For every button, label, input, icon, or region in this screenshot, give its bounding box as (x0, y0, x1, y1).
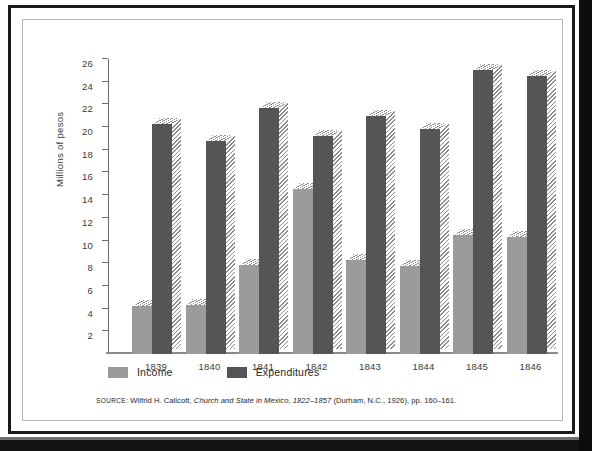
bar-expenditures (259, 108, 279, 354)
y-tick: 22 (102, 103, 108, 104)
bar-face (453, 235, 473, 354)
y-tick-label: 26 (82, 58, 93, 59)
y-tick: 18 (102, 149, 108, 150)
bar-group (400, 59, 453, 354)
bar-group (507, 59, 560, 354)
legend-item-expenditures: Expenditures (227, 366, 320, 378)
bar-income (346, 260, 366, 354)
source-author: Wilfrid H. Callcott, (130, 396, 191, 405)
bar-side-hatch (279, 103, 288, 349)
legend-item-income: Income (108, 366, 173, 378)
x-tick-label: 1846 (520, 361, 542, 372)
bar-group (186, 59, 239, 354)
y-tick-label: 20 (82, 126, 93, 127)
bar-face (239, 265, 259, 354)
bar-group (239, 59, 292, 354)
y-axis-title: Millions of pesos (54, 112, 65, 187)
y-tick: 20 (102, 126, 108, 127)
bar-expenditures (420, 129, 440, 354)
bar-income (239, 265, 259, 354)
bar-top-hatch (368, 110, 393, 116)
legend-label-expenditures: Expenditures (256, 366, 320, 378)
scanned-page: Millions of pesos 2468101214161820222426… (0, 0, 592, 451)
y-tick-label: 2 (88, 330, 93, 331)
bar-face (293, 189, 313, 354)
source-tail: (Durham, N.C., 1926), pp. 160–161. (333, 396, 456, 405)
bar-face (400, 266, 420, 355)
scan-edge-right (579, 0, 592, 451)
bar-face (313, 136, 333, 354)
bar-expenditures (473, 70, 493, 354)
y-tick-label: 12 (82, 216, 93, 217)
bar-expenditures (313, 136, 333, 354)
y-tick-label: 8 (88, 262, 93, 263)
x-tick-label: 1845 (466, 361, 488, 372)
bar-income (293, 189, 313, 354)
legend-label-income: Income (137, 366, 173, 378)
plot-area: 2468101214161820222426 18391840184118421… (108, 59, 547, 354)
bar-face (206, 141, 226, 354)
source-title: Church and State in Mexico, 1822–1857 (194, 396, 331, 405)
bar-side-hatch (440, 124, 449, 349)
y-tick: 16 (102, 171, 108, 172)
y-tick-label: 24 (82, 80, 93, 81)
y-tick: 26 (102, 58, 108, 59)
bar-side-hatch (226, 136, 235, 349)
bar-expenditures (527, 76, 547, 354)
bar-income (507, 237, 527, 354)
y-tick: 24 (102, 81, 108, 82)
bar-income (186, 305, 206, 354)
y-tick-label: 10 (82, 239, 93, 240)
bar-income (132, 306, 152, 354)
bar-face (132, 306, 152, 354)
legend-swatch-income (108, 367, 128, 378)
y-axis-line (108, 59, 109, 354)
y-tick: 2 (102, 330, 108, 331)
y-tick-label: 14 (82, 194, 93, 195)
bar-face (152, 124, 172, 354)
bar-income (453, 235, 473, 354)
source-note: SOURCE: Wilfrid H. Callcott, Church and … (96, 396, 456, 405)
bar-income (400, 266, 420, 355)
bar-face (186, 305, 206, 354)
bar-group (346, 59, 399, 354)
bar-top-hatch (261, 102, 286, 108)
legend-swatch-expenditures (227, 367, 247, 378)
bar-group (132, 59, 185, 354)
bar-expenditures (206, 141, 226, 354)
scan-edge-bottom (0, 440, 592, 451)
bar-side-hatch (333, 131, 342, 349)
y-tick: 14 (102, 194, 108, 195)
bar-face (366, 116, 386, 354)
bar-group (293, 59, 346, 354)
y-tick: 8 (102, 262, 108, 263)
source-prefix: SOURCE: (96, 397, 128, 404)
bar-side-hatch (493, 65, 502, 349)
bar-face (259, 108, 279, 354)
bar-top-hatch (154, 118, 179, 124)
y-tick: 12 (102, 217, 108, 218)
bar-side-hatch (547, 71, 556, 349)
bar-side-hatch (386, 111, 395, 349)
y-tick: 10 (102, 240, 108, 241)
bar-expenditures (366, 116, 386, 354)
y-tick: 6 (102, 285, 108, 286)
x-tick-label: 1844 (413, 361, 435, 372)
bar-face (527, 76, 547, 354)
y-tick-label: 22 (82, 103, 93, 104)
bar-expenditures (152, 124, 172, 354)
bar-side-hatch (172, 119, 181, 349)
bar-face (507, 237, 527, 354)
bar-group (453, 59, 506, 354)
y-tick-label: 16 (82, 171, 93, 172)
bar-face (473, 70, 493, 354)
y-tick-label: 6 (88, 284, 93, 285)
y-tick-label: 18 (82, 148, 93, 149)
x-tick-label: 1843 (359, 361, 381, 372)
bar-chart: Millions of pesos 2468101214161820222426… (22, 19, 563, 421)
y-tick-label: 4 (88, 307, 93, 308)
y-tick: 4 (102, 308, 108, 309)
chart-legend: IncomeExpenditures (108, 366, 319, 378)
bar-face (346, 260, 366, 354)
bar-face (420, 129, 440, 354)
